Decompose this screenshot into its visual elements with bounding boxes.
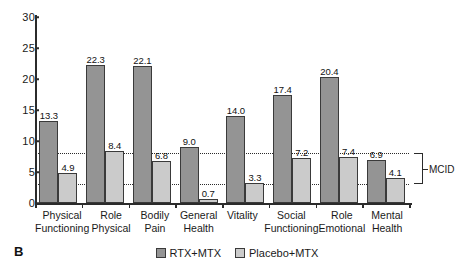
mcid-bracket — [414, 153, 423, 185]
category-label-line: Vitality — [221, 209, 265, 222]
bar-value-label: 6.8 — [155, 150, 168, 161]
legend: RTX+MTXPlacebo+MTX — [0, 247, 474, 259]
bar-groups: 13.34.922.38.422.16.89.00.714.03.317.47.… — [35, 17, 409, 203]
bar[interactable]: 4.9 — [58, 173, 77, 203]
category-label-line: Health — [365, 222, 409, 235]
category-label-line: Mental — [365, 209, 409, 222]
bar[interactable]: 17.4 — [273, 95, 292, 203]
bar-slot: 13.3 — [39, 17, 58, 203]
bar-slot: 0.7 — [199, 17, 218, 203]
chart-figure: 051015202530 13.34.922.38.422.16.89.00.7… — [0, 0, 474, 273]
bar-value-label: 8.4 — [108, 140, 121, 151]
category-label-line: Bodily — [133, 209, 177, 222]
bar-slot: 14.0 — [226, 17, 245, 203]
bar-value-label: 4.1 — [389, 167, 402, 178]
bar-value-label: 13.3 — [40, 110, 58, 121]
bar-group: 6.94.1 — [362, 17, 409, 203]
category-label-line: Social — [264, 209, 318, 222]
bar-group: 17.47.2 — [269, 17, 316, 203]
bar-value-label: 14.0 — [227, 105, 245, 116]
x-axis-tick-mark — [129, 203, 131, 208]
bar-slot: 6.9 — [367, 17, 386, 203]
bar-value-label: 6.9 — [370, 149, 383, 160]
bar-value-label: 4.9 — [61, 162, 74, 173]
bar-group: 20.47.4 — [316, 17, 363, 203]
category-label-line: Functioning — [264, 222, 318, 235]
legend-swatch-icon — [156, 248, 166, 258]
x-axis-tick-mark — [35, 203, 37, 208]
x-axis-category-label: RolePhysical — [89, 209, 133, 243]
panel-letter: B — [14, 244, 23, 259]
x-axis-category-label: GeneralHealth — [177, 209, 221, 243]
legend-item[interactable]: RTX+MTX — [156, 247, 221, 259]
bar[interactable]: 7.4 — [339, 157, 358, 203]
bar-group: 22.38.4 — [82, 17, 129, 203]
bar[interactable]: 7.2 — [292, 158, 311, 203]
bar-value-label: 20.4 — [320, 66, 338, 77]
bar-value-label: 22.1 — [133, 55, 151, 66]
bar-slot: 9.0 — [180, 17, 199, 203]
bar-slot: 4.1 — [386, 17, 405, 203]
bar[interactable]: 6.9 — [367, 160, 386, 203]
bar-value-label: 3.3 — [248, 172, 261, 183]
bar-slot: 4.9 — [58, 17, 77, 203]
x-axis-tick-mark — [269, 203, 271, 208]
bar[interactable]: 14.0 — [226, 116, 245, 203]
bar-value-label: 0.7 — [202, 188, 215, 199]
bar-value-label: 22.3 — [87, 54, 105, 65]
bar[interactable]: 9.0 — [180, 147, 199, 203]
x-axis-category-label: SocialFunctioning — [264, 209, 318, 243]
x-axis-tick-mark — [362, 203, 364, 208]
bar-value-label: 17.4 — [274, 84, 292, 95]
bar-value-label: 9.0 — [183, 136, 196, 147]
category-label-line: Health — [177, 222, 221, 235]
legend-item[interactable]: Placebo+MTX — [235, 247, 318, 259]
category-label-line: General — [177, 209, 221, 222]
bar-slot: 3.3 — [245, 17, 264, 203]
bar[interactable]: 22.1 — [133, 66, 152, 203]
bar[interactable]: 22.3 — [86, 65, 105, 203]
bar[interactable]: 6.8 — [152, 161, 171, 203]
x-axis-category-labels: PhysicalFunctioningRolePhysicalBodilyPai… — [35, 209, 409, 243]
bar-group: 9.00.7 — [175, 17, 222, 203]
bar-value-label: 7.4 — [342, 146, 355, 157]
category-label-line: Physical — [35, 209, 89, 222]
bar-slot: 22.1 — [133, 17, 152, 203]
x-axis-category-label: Vitality — [221, 209, 265, 243]
bar-group: 22.16.8 — [129, 17, 176, 203]
bar-group: 14.03.3 — [222, 17, 269, 203]
bar-group: 13.34.9 — [35, 17, 82, 203]
x-axis-category-label: RoleEmotional — [319, 209, 366, 243]
bar[interactable]: 0.7 — [199, 199, 218, 203]
bar[interactable]: 8.4 — [105, 151, 124, 203]
bar-slot: 7.4 — [339, 17, 358, 203]
bar-value-label: 7.2 — [295, 147, 308, 158]
bar[interactable]: 3.3 — [245, 183, 264, 203]
plot-area: 13.34.922.38.422.16.89.00.714.03.317.47.… — [35, 17, 409, 203]
legend-item-label: RTX+MTX — [170, 247, 221, 259]
bar-slot: 8.4 — [105, 17, 124, 203]
bar-slot: 22.3 — [86, 17, 105, 203]
bar-slot: 20.4 — [320, 17, 339, 203]
bar[interactable]: 13.3 — [39, 121, 58, 203]
category-label-line: Functioning — [35, 222, 89, 235]
mcid-label: MCID — [429, 163, 455, 174]
x-axis-line — [35, 203, 412, 205]
x-axis-category-label: MentalHealth — [365, 209, 409, 243]
bar-slot: 17.4 — [273, 17, 292, 203]
bar[interactable]: 4.1 — [386, 178, 405, 203]
category-label-line: Pain — [133, 222, 177, 235]
legend-item-label: Placebo+MTX — [249, 247, 318, 259]
category-label-line: Role — [319, 209, 366, 222]
x-axis-tick-mark — [175, 203, 177, 208]
bar-slot: 7.2 — [292, 17, 311, 203]
category-label-line: Role — [89, 209, 133, 222]
category-label-line: Physical — [89, 222, 133, 235]
category-label-line: Emotional — [319, 222, 366, 235]
x-axis-tick-mark — [316, 203, 318, 208]
mcid-bracket-stem — [423, 169, 428, 170]
x-axis-tick-mark — [82, 203, 84, 208]
bar-slot: 6.8 — [152, 17, 171, 203]
x-axis-tick-mark — [409, 203, 411, 208]
bar[interactable]: 20.4 — [320, 77, 339, 203]
